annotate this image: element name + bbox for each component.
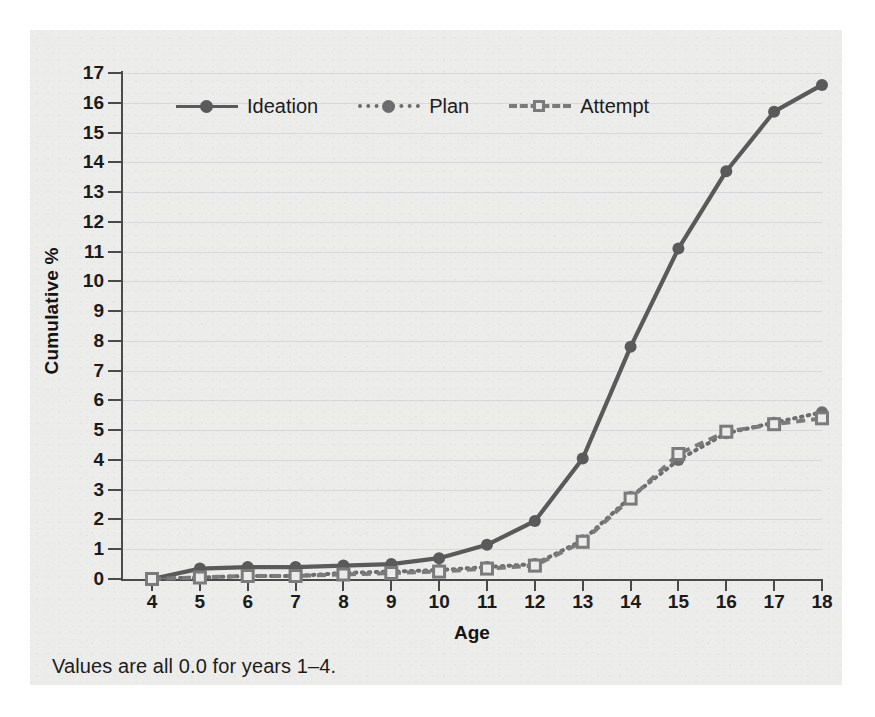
legend-swatch-plan-icon bbox=[358, 97, 420, 115]
legend-item-attempt: Attempt bbox=[509, 95, 649, 118]
data-point-ideation bbox=[672, 243, 684, 255]
data-point-ideation bbox=[720, 165, 732, 177]
data-point-ideation bbox=[577, 453, 589, 465]
data-point-attempt bbox=[482, 563, 493, 574]
legend-swatch-ideation-icon bbox=[176, 97, 238, 115]
data-point-attempt bbox=[721, 426, 732, 437]
data-point-attempt bbox=[625, 493, 636, 504]
legend-label-attempt: Attempt bbox=[580, 95, 649, 118]
data-point-ideation bbox=[529, 515, 541, 527]
data-point-attempt bbox=[338, 569, 349, 580]
data-point-ideation bbox=[768, 106, 780, 118]
chart-plot-area: 17161514131211109876543210 4567891011121… bbox=[0, 0, 875, 717]
data-point-attempt bbox=[386, 568, 397, 579]
series-line-attempt bbox=[152, 418, 822, 579]
data-point-attempt bbox=[434, 566, 445, 577]
data-point-attempt bbox=[242, 571, 253, 582]
data-point-attempt bbox=[769, 419, 780, 430]
data-point-ideation bbox=[481, 539, 493, 551]
data-point-attempt bbox=[817, 413, 828, 424]
legend-swatch-attempt-icon bbox=[509, 97, 571, 115]
legend-item-plan: Plan bbox=[358, 95, 469, 118]
chart-legend: Ideation Plan Attempt bbox=[176, 93, 689, 119]
figure-page: 17161514131211109876543210 4567891011121… bbox=[0, 0, 875, 717]
legend-label-ideation: Ideation bbox=[247, 95, 318, 118]
legend-label-plan: Plan bbox=[429, 95, 469, 118]
data-point-attempt bbox=[290, 571, 301, 582]
data-point-attempt bbox=[529, 560, 540, 571]
data-point-attempt bbox=[194, 572, 205, 583]
data-point-attempt bbox=[577, 536, 588, 547]
data-point-attempt bbox=[673, 449, 684, 460]
figure-footnote: Values are all 0.0 for years 1–4. bbox=[52, 655, 336, 678]
data-point-ideation bbox=[433, 552, 445, 564]
series-line-ideation bbox=[152, 85, 822, 579]
data-point-ideation bbox=[625, 341, 637, 353]
data-point-attempt bbox=[147, 574, 158, 585]
data-point-ideation bbox=[816, 79, 828, 91]
legend-item-ideation: Ideation bbox=[176, 95, 318, 118]
